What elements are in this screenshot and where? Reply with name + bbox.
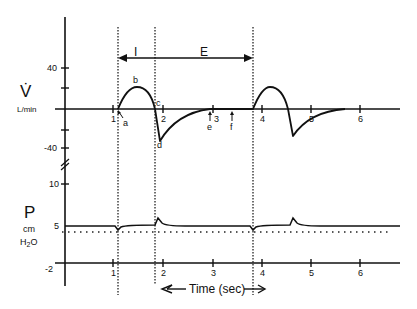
point-label-c: c (156, 98, 161, 108)
expiration-label: E (200, 45, 208, 59)
pressure-ytick-5: 5 (54, 221, 59, 231)
time-label: Time (sec) (189, 282, 245, 296)
pressure-symbol: P (24, 203, 35, 222)
flow-unit: L/min (17, 105, 37, 114)
flow-xtick-1: 1 (111, 114, 116, 124)
arrowhead-right-icon (244, 54, 253, 62)
phase-arrow: I E (118, 45, 253, 62)
pressure-xtick-6: 6 (358, 268, 363, 278)
flow-xtick-3: 3 (214, 114, 219, 124)
pressure-panel: P cm H2O 10 5 -2 1 2 3 4 5 6 (20, 179, 400, 278)
point-label-e: e (207, 122, 212, 132)
inspiration-label: I (134, 45, 137, 59)
flow-ytick-40: 40 (47, 63, 57, 73)
pressure-unit-line1: cm (23, 224, 35, 234)
flow-symbol: V̇ (20, 82, 32, 101)
pressure-curve (65, 218, 400, 230)
point-label-b: b (133, 75, 138, 85)
arrow-f-icon (230, 111, 234, 121)
flow-xtick-2: 2 (161, 114, 166, 124)
point-label-f: f (230, 122, 233, 132)
time-axis-label: Time (sec) (162, 282, 265, 296)
arrow-a-icon (118, 110, 124, 118)
arrowhead-left-icon (118, 54, 127, 62)
point-label-d: d (157, 140, 162, 150)
pressure-xtick-1: 1 (111, 268, 116, 278)
pressure-xtick-5: 5 (309, 268, 314, 278)
pressure-xtick-3: 3 (211, 268, 216, 278)
pressure-unit-line2: H2O (20, 237, 37, 248)
pressure-ytick-neg2: -2 (45, 264, 53, 274)
flow-xtick-4: 4 (260, 114, 265, 124)
pressure-xtick-4: 4 (260, 268, 265, 278)
flow-xtick-6: 6 (358, 114, 363, 124)
pressure-xtick-2: 2 (161, 268, 166, 278)
flow-ytick-neg40: -40 (44, 143, 57, 153)
point-label-a: a (123, 118, 128, 128)
pressure-ytick-10: 10 (49, 179, 59, 189)
flow-panel: V̇ L/min 40 -40 1 2 3 4 5 6 a (17, 63, 400, 153)
arrow-e-icon (208, 111, 212, 121)
respiratory-waveform-diagram: I E V̇ L/min 40 -40 1 2 3 4 5 6 (0, 0, 417, 309)
